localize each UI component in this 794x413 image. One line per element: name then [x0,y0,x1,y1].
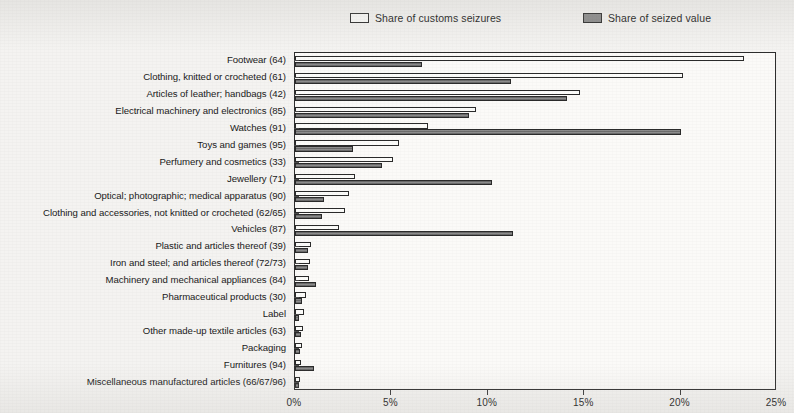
chart-page: Share of customs seizures Share of seize… [0,0,794,413]
axis-stub-mark [294,263,299,264]
axis-tick-mark [390,390,391,395]
axis-stub-mark [294,297,299,298]
axis-stub-mark [294,162,299,163]
axis-stub-mark [294,213,299,214]
bar-chart: Footwear (64)Clothing, knitted or croche… [0,0,794,413]
axis-stub-mark [294,314,299,315]
axis-stub-mark [294,382,299,383]
axis-tick-label: 5% [383,397,398,408]
axis-stub-mark [294,229,299,230]
axis-tick-label: 0% [287,397,302,408]
axis-tick-mark [487,390,488,395]
value-axis: 0%5%10%15%20%25% [0,0,794,413]
axis-stub-mark [294,280,299,281]
axis-tick-mark [583,390,584,395]
axis-tick-mark [680,390,681,395]
axis-stub-mark [294,246,299,247]
axis-stub-mark [294,60,299,61]
axis-stub-mark [294,196,299,197]
axis-stub-mark [294,77,299,78]
axis-stub-mark [294,111,299,112]
axis-stub-mark [294,145,299,146]
axis-tick-label: 10% [476,397,497,408]
axis-stub-mark [294,331,299,332]
axis-tick-label: 15% [573,397,594,408]
axis-stub-mark [294,128,299,129]
axis-tick-label: 25% [766,397,787,408]
axis-stub-mark [294,94,299,95]
axis-stub-mark [294,179,299,180]
axis-stub-mark [294,348,299,349]
axis-tick-label: 20% [669,397,690,408]
axis-stub-mark [294,365,299,366]
